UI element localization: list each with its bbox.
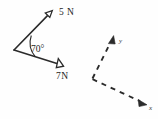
axis-y-arrowhead <box>108 36 115 44</box>
axis-y-shaft <box>93 43 111 79</box>
force-7n-arrowhead <box>56 59 63 68</box>
force-5n-label: 5 N <box>59 7 74 17</box>
force-diagram-figure: 5 N 7N 70° y x <box>0 0 158 119</box>
axis-x-label: x <box>148 104 153 112</box>
angle-label: 70° <box>31 44 45 54</box>
figure-canvas: 5 N 7N 70° y x <box>0 0 158 119</box>
axis-x-arrowhead <box>138 100 147 107</box>
force-vector-group <box>14 11 64 68</box>
force-7n-label: 7N <box>56 71 68 81</box>
axis-x-shaft <box>93 79 141 101</box>
dashed-axes-group <box>93 36 148 107</box>
axis-y-label: y <box>118 37 123 45</box>
